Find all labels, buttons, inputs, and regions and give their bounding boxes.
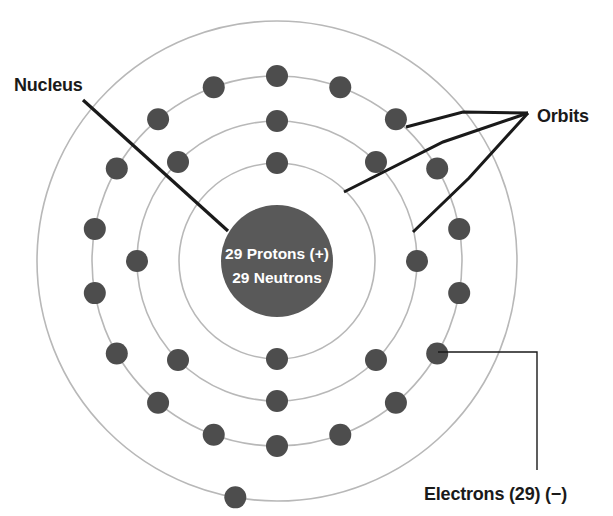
- electron: [266, 390, 288, 412]
- electron: [266, 65, 288, 87]
- electron: [224, 486, 246, 508]
- electron: [329, 76, 351, 98]
- nucleus-protons-text: 29 Protons (+): [225, 245, 329, 262]
- nucleus-group: 29 Protons (+) 29 Neutrons: [221, 205, 333, 317]
- label-nucleus: Nucleus: [14, 75, 83, 95]
- electron: [84, 282, 106, 304]
- electron: [406, 250, 428, 272]
- electron: [329, 424, 351, 446]
- atom-diagram-svg: 29 Protons (+) 29 Neutrons Nucleus Orbit…: [0, 0, 613, 516]
- electron: [365, 349, 387, 371]
- electron: [167, 151, 189, 173]
- electron: [365, 151, 387, 173]
- electron: [147, 108, 169, 130]
- label-orbits: Orbits: [537, 106, 589, 126]
- electron: [448, 282, 470, 304]
- electron: [203, 76, 225, 98]
- label-electrons: Electrons (29) (−): [424, 484, 567, 504]
- atom-diagram-canvas: 29 Protons (+) 29 Neutrons Nucleus Orbit…: [0, 0, 613, 516]
- electron: [266, 435, 288, 457]
- electron: [106, 158, 128, 180]
- electron: [106, 343, 128, 365]
- electron: [147, 392, 169, 414]
- electron: [266, 152, 288, 174]
- electron: [126, 250, 148, 272]
- electron: [385, 392, 407, 414]
- electron: [426, 343, 448, 365]
- electron: [266, 348, 288, 370]
- electron: [167, 349, 189, 371]
- electron: [203, 424, 225, 446]
- nucleus-neutrons-text: 29 Neutrons: [232, 269, 322, 286]
- electron: [266, 110, 288, 132]
- electron: [448, 218, 470, 240]
- electron: [385, 108, 407, 130]
- electron: [426, 158, 448, 180]
- electron: [84, 218, 106, 240]
